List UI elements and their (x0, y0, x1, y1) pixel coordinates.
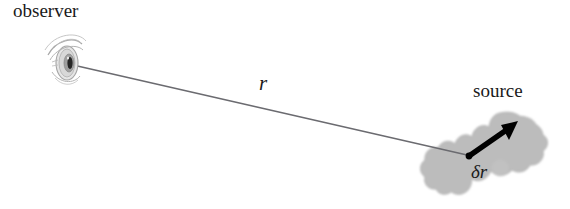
cloud-blob-icon (421, 112, 548, 195)
physics-diagram: observer source r δr (0, 0, 570, 209)
eye-icon (45, 35, 86, 84)
depth-element-label-delta-r: δr (471, 162, 487, 181)
distance-label-r: r (259, 73, 267, 94)
observer-label: observer (13, 1, 78, 20)
source-label: source (473, 81, 523, 100)
line-of-sight (73, 65, 467, 155)
